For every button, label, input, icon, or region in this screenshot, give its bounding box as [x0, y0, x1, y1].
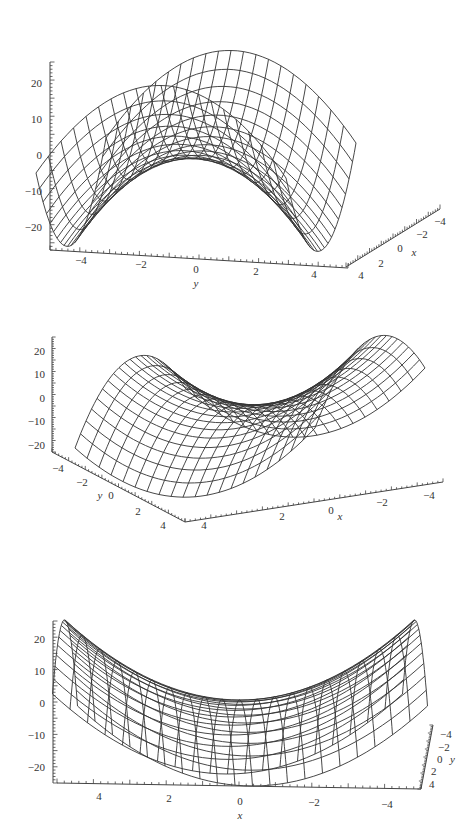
- y-tick-label: 2: [431, 765, 437, 777]
- y-axis-label: y: [193, 277, 199, 289]
- panel-2: 20 10 0 −10 −20 −4 −2 y 0 2 4 4 2 0 x −2…: [28, 335, 443, 531]
- y-axis-1: −4 −2 0 2 4 y: [50, 246, 348, 290]
- x-axis-1: 4 2 0 x −2 −4: [346, 205, 446, 282]
- z-tick-label: 0: [40, 392, 46, 404]
- y-tick-label: −2: [135, 258, 147, 270]
- y-tick-label: 2: [135, 505, 141, 517]
- y-tick-label: −2: [438, 741, 450, 753]
- z-tick-label: 10: [34, 665, 46, 677]
- x-tick-label: 2: [378, 257, 384, 269]
- x-tick-label: 0: [237, 795, 243, 807]
- y-tick-label: 0: [108, 489, 114, 501]
- y-axis-2: −4 −2 y 0 2 4: [52, 448, 185, 531]
- y-axis-label: y: [97, 489, 103, 501]
- surface-mesh-2: [75, 335, 425, 497]
- y-tick-label: 4: [160, 519, 166, 531]
- x-axis-label: x: [411, 246, 417, 258]
- x-tick-label: −4: [423, 489, 435, 501]
- y-tick-label: −4: [440, 728, 452, 740]
- figure-canvas: 20 10 0 −10 −20 −4 −2 0 2 4 y 4 2 0 x −2…: [0, 0, 476, 829]
- y-tick-label: −4: [52, 462, 64, 474]
- z-tick-label: −20: [25, 221, 43, 233]
- x-tick-label: −2: [376, 496, 388, 508]
- panel-1: 20 10 0 −10 −20 −4 −2 0 2 4 y 4 2 0 x −2…: [25, 51, 447, 290]
- z-tick-label: −20: [28, 761, 46, 773]
- x-axis-label: x: [337, 510, 343, 522]
- z-tick-label: −10: [28, 729, 46, 741]
- x-tick-label: 4: [201, 519, 207, 531]
- surface-mesh-1: [36, 51, 356, 252]
- x-tick-label: 4: [96, 790, 102, 802]
- x-tick-label: 0: [397, 242, 403, 254]
- x-axis-label: x: [237, 809, 243, 821]
- x-tick-label: 2: [166, 792, 172, 804]
- z-tick-label: 20: [31, 77, 43, 89]
- x-tick-label: −4: [381, 798, 393, 810]
- x-axis-2: 4 2 0 x −2 −4: [185, 478, 443, 531]
- z-tick-label: −20: [28, 439, 46, 451]
- y-tick-label: 2: [253, 265, 259, 277]
- x-tick-label: 0: [328, 504, 334, 516]
- y-tick-label: −4: [75, 254, 87, 266]
- z-tick-label: −10: [25, 185, 43, 197]
- y-tick-label: 4: [429, 778, 435, 790]
- x-tick-label: −2: [308, 796, 320, 808]
- x-axis-3: 4 2 0 x −2 −4: [57, 779, 421, 822]
- z-tick-label: 10: [34, 368, 46, 380]
- x-tick-label: −4: [434, 215, 446, 227]
- x-tick-label: 4: [358, 269, 364, 281]
- y-tick-label: 4: [311, 268, 317, 280]
- surface-mesh-3: [53, 620, 428, 786]
- z-tick-label: 20: [34, 345, 46, 357]
- z-tick-label: −10: [28, 415, 46, 427]
- x-tick-label: −2: [416, 228, 428, 240]
- x-tick-label: 2: [279, 510, 285, 522]
- z-tick-label: 0: [37, 149, 43, 161]
- panel-3: 20 10 0 −10 −20 4 2 0 x −2 −4 −4 −2 0 y …: [28, 620, 455, 821]
- y-axis-label: y: [449, 753, 455, 765]
- z-axis-1: 20 10 0 −10 −20: [25, 62, 55, 250]
- z-axis-3: 20 10 0 −10 −20: [28, 621, 58, 783]
- z-tick-label: 20: [34, 633, 46, 645]
- y-tick-label: 0: [437, 753, 443, 765]
- y-tick-label: 0: [193, 263, 199, 275]
- z-tick-label: 0: [40, 697, 46, 709]
- y-axis-3: −4 −2 0 y 2 4: [417, 725, 455, 790]
- z-axis-2: 20 10 0 −10 −20: [28, 337, 56, 452]
- z-tick-label: 10: [31, 113, 43, 125]
- y-tick-label: −2: [76, 476, 88, 488]
